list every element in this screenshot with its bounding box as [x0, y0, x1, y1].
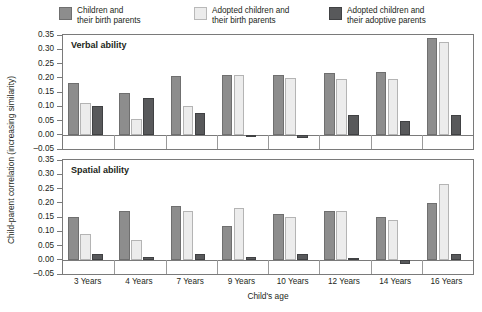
- bar: [80, 234, 91, 260]
- y-tick-label: 0.20: [38, 73, 54, 83]
- bar: [273, 75, 284, 135]
- group-separator: [319, 135, 320, 149]
- y-tick-label: 0.15: [38, 87, 54, 97]
- group-separator: [166, 135, 167, 149]
- bar: [388, 220, 399, 260]
- bar: [439, 42, 450, 135]
- legend-item-adopted-birth-parents: Adopted children and their birth parents: [194, 6, 289, 25]
- bar: [400, 260, 411, 264]
- group-separator: [217, 135, 218, 149]
- group-separator: [371, 260, 372, 274]
- bar: [297, 254, 308, 260]
- y-tick: 0.20: [0, 198, 62, 208]
- bar: [183, 106, 194, 135]
- y-tick-label: 0.10: [38, 226, 54, 236]
- x-axis-title: Child's age: [62, 291, 474, 301]
- y-tick: 0.15: [0, 87, 62, 97]
- bar: [427, 203, 438, 260]
- bar: [171, 76, 182, 134]
- x-tick-label: 16 Years: [430, 276, 462, 287]
- chart-panel-verbal: Verbal ability: [62, 34, 474, 150]
- bar: [451, 254, 462, 260]
- y-tick-label: 0.25: [38, 184, 54, 194]
- group-separator: [114, 135, 115, 149]
- x-tick-label: 10 Years: [277, 276, 309, 287]
- bar: [119, 93, 130, 134]
- bar: [195, 113, 206, 134]
- bar: [336, 211, 347, 259]
- y-tick-label: 0.25: [38, 59, 54, 69]
- bar: [451, 115, 462, 135]
- bar: [246, 135, 257, 137]
- group-separator: [371, 135, 372, 149]
- bar: [143, 98, 154, 135]
- y-tick: 0.15: [0, 212, 62, 222]
- group-separator: [166, 260, 167, 274]
- bar: [131, 119, 142, 135]
- group-separator: [217, 260, 218, 274]
- group-separator: [268, 135, 269, 149]
- plot-area-spatial: [63, 160, 473, 274]
- bar: [143, 257, 154, 260]
- bar: [68, 83, 79, 134]
- y-tick-label: 0.05: [38, 116, 54, 126]
- legend-item-label: Adopted children and their birth parents: [212, 6, 289, 25]
- y-tick: –0.05: [0, 269, 62, 279]
- bar: [119, 211, 130, 259]
- y-tick: 0.10: [0, 226, 62, 236]
- y-tick-label: 0.35: [38, 30, 54, 40]
- bar: [171, 206, 182, 260]
- bar: [285, 217, 296, 260]
- chart-legend: Children and their birth parents Adopted…: [0, 0, 482, 34]
- y-tick-label: 0.05: [38, 241, 54, 251]
- y-tick: 0.35: [0, 30, 62, 40]
- y-tick: 0.00: [0, 130, 62, 140]
- legend-item-adopted-adoptive-parents: Adopted children and their adoptive pare…: [329, 6, 426, 25]
- bar: [439, 184, 450, 260]
- y-tick-label: 0.00: [38, 255, 54, 265]
- panel-title: Verbal ability: [71, 40, 127, 50]
- y-tick-label: –0.05: [34, 144, 55, 154]
- legend-swatch-icon: [194, 7, 207, 20]
- x-tick-label: 4 Years: [125, 276, 152, 287]
- bar: [336, 79, 347, 135]
- y-tick: 0.30: [0, 169, 62, 179]
- bar: [234, 75, 245, 135]
- y-tick-label: 0.15: [38, 212, 54, 222]
- bar: [324, 211, 335, 259]
- x-tick-label: 9 Years: [228, 276, 255, 287]
- bar: [273, 214, 284, 260]
- bar: [246, 257, 257, 260]
- group-separator: [268, 260, 269, 274]
- y-tick: 0.35: [0, 155, 62, 165]
- y-tick: 0.25: [0, 184, 62, 194]
- bar: [234, 208, 245, 259]
- group-separator: [319, 260, 320, 274]
- legend-item-label: Children and their birth parents: [77, 6, 141, 25]
- y-tick: 0.05: [0, 116, 62, 126]
- y-axis-ticks-spatial: 0.350.300.250.200.150.100.050.00–0.05: [0, 159, 62, 275]
- bar: [195, 254, 206, 260]
- plot-area-verbal: [63, 35, 473, 149]
- panel-title: Spatial ability: [71, 165, 129, 175]
- y-tick-label: 0.20: [38, 198, 54, 208]
- bar: [92, 106, 103, 135]
- group-separator: [422, 260, 423, 274]
- y-tick: –0.05: [0, 144, 62, 154]
- bar: [68, 217, 79, 260]
- bar: [400, 121, 411, 135]
- y-axis-ticks-verbal: 0.350.300.250.200.150.100.050.00–0.05: [0, 34, 62, 150]
- bar: [222, 75, 233, 135]
- y-tick: 0.10: [0, 101, 62, 111]
- legend-item-label: Adopted children and their adoptive pare…: [347, 6, 426, 25]
- y-tick-label: 0.00: [38, 130, 54, 140]
- bar: [183, 211, 194, 259]
- group-separator: [422, 135, 423, 149]
- bar: [376, 217, 387, 260]
- legend-item-children-birth-parents: Children and their birth parents: [59, 6, 141, 25]
- y-tick: 0.05: [0, 241, 62, 251]
- y-tick-label: 0.30: [38, 44, 54, 54]
- y-tick-label: –0.05: [34, 269, 55, 279]
- bar: [388, 79, 399, 135]
- chart-panel-spatial: Spatial ability: [62, 159, 474, 275]
